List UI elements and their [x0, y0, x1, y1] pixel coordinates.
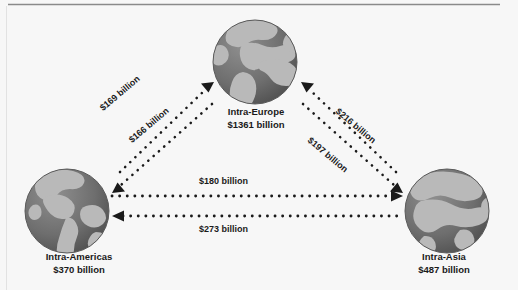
trade-flow-figure: Intra-Americas $370 billion Intra-Europe… [0, 0, 518, 290]
node-label-asia: Intra-Asia $487 billion [382, 251, 506, 276]
flow-americas-to-asia [112, 191, 403, 202]
node-name-europe: Intra-Europe [193, 106, 319, 119]
node-name-americas: Intra-Americas [13, 251, 145, 264]
node-name-asia: Intra-Asia [382, 251, 506, 264]
flow-asia-to-americas [112, 211, 403, 222]
globe-asia-icon [405, 169, 498, 255]
flow-label-asia-to-americas: $273 billion [199, 224, 248, 234]
node-label-europe: Intra-Europe $1361 billion [193, 106, 319, 131]
diagram-canvas [0, 0, 518, 290]
node-value-europe: $1361 billion [193, 119, 319, 132]
node-value-asia: $487 billion [382, 264, 506, 277]
globe-europe-icon [210, 20, 303, 110]
node-value-americas: $370 billion [13, 264, 145, 277]
flow-label-americas-to-asia: $180 billion [199, 176, 248, 186]
node-label-americas: Intra-Americas $370 billion [13, 251, 145, 276]
